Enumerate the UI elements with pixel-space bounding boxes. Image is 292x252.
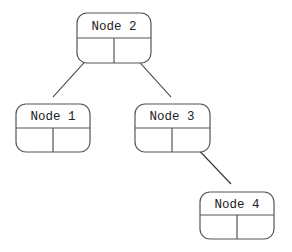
tree-diagram: Node 2 Node 1 Node 3 Node 4: [0, 0, 292, 252]
node-label: Node 2: [91, 20, 136, 34]
tree-node-node-3[interactable]: Node 3: [135, 104, 210, 152]
node-label: Node 1: [30, 110, 75, 124]
tree-node-node-2[interactable]: Node 2: [77, 13, 151, 63]
tree-node-node-1[interactable]: Node 1: [16, 104, 90, 152]
node-label: Node 3: [149, 110, 194, 124]
tree-node-node-4[interactable]: Node 4: [200, 192, 274, 239]
node-label: Node 4: [214, 198, 259, 212]
